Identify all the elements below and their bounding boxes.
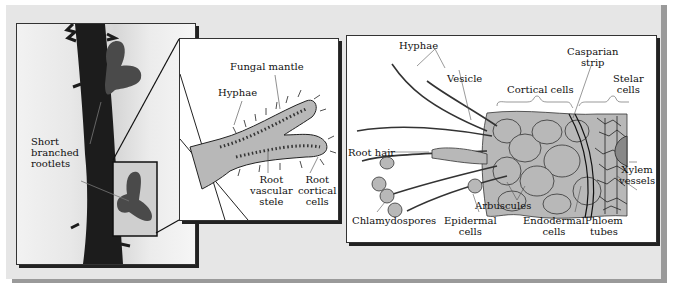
endomycorrhiza-drawing-panel: Hyphae Vesicle Cortical cells Casparian … [346, 35, 657, 243]
root-hair-label: Root hair [348, 147, 395, 158]
stelar-cells-label: Stelar cells [613, 73, 644, 95]
epidermal-cells-label: Epidermal cells [444, 215, 497, 237]
vesicle-label: Vesicle [447, 73, 482, 84]
fungal-mantle-label: Fungal mantle [230, 61, 304, 72]
arbuscules-label: Arbuscules [475, 200, 531, 211]
xylem-vessels-label: Xylem vessels [619, 164, 655, 186]
phloem-tubes-label: Phloem tubes [585, 215, 623, 237]
root-vascular-stele-label: Root vascular stele [250, 174, 293, 207]
hyphae-label-right: Hyphae [399, 40, 438, 51]
cortical-cells-label: Cortical cells [507, 84, 574, 95]
rootlet-photo-panel: Short branched rootlets [16, 23, 196, 265]
figure-shadow-right [661, 5, 667, 281]
chlamydospores-label: Chlamydospores [352, 215, 436, 226]
root-cortical-cells-label: Root cortical cells [298, 174, 336, 207]
endodermal-cells-label: Endodermal cells [523, 215, 585, 237]
short-branched-rootlets-label: Short branched rootlets [31, 136, 79, 169]
ectomycorrhiza-drawing-panel: Fungal mantle Hyphae Root vascular stele… [179, 38, 339, 221]
figure-shadow-bottom [12, 279, 667, 283]
hyphae-label-left: Hyphae [218, 87, 257, 98]
casparian-strip-label: Casparian strip [567, 46, 619, 68]
